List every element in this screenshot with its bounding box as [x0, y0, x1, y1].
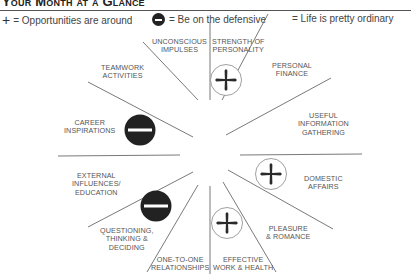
opportunity-cross-icon-work-health	[212, 208, 243, 239]
defensive-minus-icon-career	[125, 115, 156, 146]
opportunity-cross-icon-domestic	[256, 159, 287, 190]
status-symbols	[0, 0, 411, 274]
opportunity-cross-icon-strength	[211, 65, 242, 96]
defensive-minus-icon-questioning	[141, 191, 172, 222]
